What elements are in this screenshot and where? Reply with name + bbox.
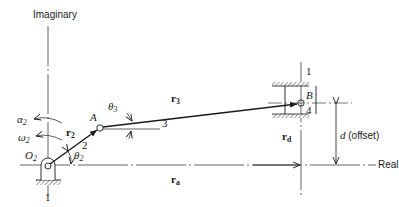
- omega2-label: ω2: [18, 132, 30, 145]
- theta3-label: θ3: [108, 101, 117, 114]
- ra-label: ra: [171, 174, 180, 187]
- slider-link-number: 4: [306, 105, 312, 116]
- slider-guide-top: [272, 82, 309, 86]
- imaginary-axis-label: Imaginary: [33, 10, 77, 20]
- alpha2-label: α2: [17, 114, 27, 127]
- joint-a-label: A: [90, 112, 97, 123]
- joint-o2-label: O2: [25, 150, 37, 163]
- joint-b-label: B: [306, 90, 313, 101]
- rd-label: rd: [282, 131, 291, 144]
- r3-label: r3: [171, 93, 180, 106]
- theta2-arc: [68, 151, 71, 164]
- ground-link-number-left: 1: [45, 192, 51, 203]
- theta3-arrows: [127, 113, 132, 139]
- omega2-arrow: [36, 135, 62, 140]
- joint-a: [97, 125, 103, 131]
- slider-guide-bottom: [272, 114, 309, 118]
- coupler-link-3: [103, 104, 297, 127]
- offset-label: d (offset): [340, 130, 379, 141]
- ground-pivot-o2: [36, 158, 61, 185]
- r2-label: r2: [66, 127, 75, 140]
- real-axis-label: Real: [378, 160, 399, 170]
- theta2-label: θ2: [74, 150, 83, 163]
- ground-link-number-slider: 1: [306, 66, 312, 77]
- coupler-link-number: 3: [162, 118, 168, 129]
